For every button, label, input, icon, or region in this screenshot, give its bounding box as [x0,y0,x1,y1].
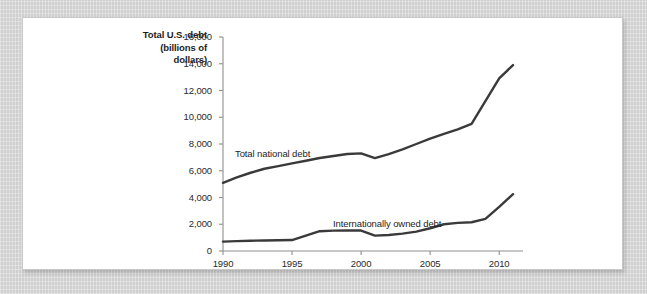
series-label-internationally-owned-debt: Internationally owned debt [333,218,441,229]
series-label-total-national-debt: Total national debt [235,148,310,159]
x-axis-tick-label: 2010 [477,258,521,269]
y-axis-title-line-2: (billions of [109,42,207,55]
y-axis-tick-label: 4,000 [166,192,212,203]
y-axis-tick-label: 6,000 [166,165,212,176]
line-chart: Total U.S. debt (billions of dollars) 02… [23,18,622,269]
y-axis-tick-label: 12,000 [166,85,212,96]
x-axis-tick-label: 2000 [339,258,383,269]
y-axis-tick-label: 2,000 [166,218,212,229]
x-axis-tick-label: 1990 [201,258,245,269]
x-axis-tick-label: 2005 [408,258,452,269]
y-axis-tick-label: 10,000 [166,111,212,122]
x-axis-tick-label: 1995 [270,258,314,269]
y-axis-tick-label: 8,000 [166,138,212,149]
y-axis-tick-label: 14,000 [166,58,212,69]
y-axis-tick-label: 0 [166,245,212,256]
series-line-0 [223,65,513,183]
figure-card: Total U.S. debt (billions of dollars) 02… [22,17,623,270]
y-axis-tick-label: 16,000 [166,31,212,42]
